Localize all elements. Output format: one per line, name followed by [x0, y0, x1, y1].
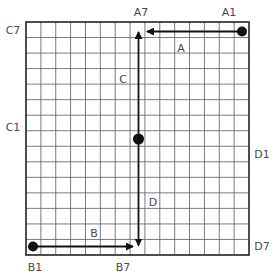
- center-dot-icon: [133, 134, 144, 145]
- endpoint-label-a1: A1: [222, 6, 237, 19]
- endpoint-label-c7: C7: [6, 24, 21, 37]
- arrow-label-a: A: [177, 42, 185, 55]
- arrows: ABCD: [28, 27, 247, 252]
- arrow-label-d: D: [149, 196, 157, 209]
- arrow-d: D: [139, 139, 158, 246]
- endpoint-label-d7: D7: [254, 240, 269, 253]
- start-dot-icon: [237, 27, 247, 37]
- endpoint-label-b1: B1: [28, 261, 43, 274]
- arrow-c: C: [119, 32, 143, 144]
- endpoint-label-d1: D1: [254, 148, 269, 161]
- arrow-label-c: C: [119, 73, 127, 86]
- endpoint-label-c1: C1: [6, 121, 21, 134]
- arrow-label-b: B: [90, 227, 98, 240]
- endpoint-label-b7: B7: [116, 261, 131, 274]
- grid-diagram: ABCD A7A1C7C1D1D7B1B7: [0, 0, 275, 280]
- endpoint-label-a7: A7: [134, 6, 149, 19]
- arrow-a: A: [147, 27, 247, 56]
- start-dot-icon: [28, 242, 38, 252]
